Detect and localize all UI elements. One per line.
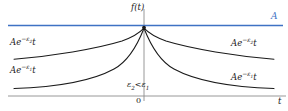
inequality-right-subscript: 1	[146, 85, 150, 91]
peak-junction-dot	[142, 26, 146, 30]
fast-decay-variable-right: t	[253, 72, 256, 82]
slow-decay-prefix-right: Ae	[231, 38, 242, 48]
epsilon-inequality-annotation: ε2<ε1	[127, 81, 149, 89]
origin-tick-label: 0	[136, 97, 141, 105]
fast-decay-variable-left: t	[32, 65, 35, 75]
fast-decay-label-left: Ae−ε1t	[10, 66, 36, 75]
slow-decay-variable-left: t	[32, 37, 35, 47]
slow-decay-label-right: Ae−ε2t	[231, 39, 257, 48]
x-axis-label: t	[278, 97, 281, 106]
amplitude-label: A	[271, 12, 278, 21]
slow-decay-label-left: Ae−ε2t	[10, 38, 36, 47]
plot-canvas	[0, 0, 288, 111]
fast-decay-prefix-right: Ae	[231, 72, 242, 82]
slow-decay-prefix-left: Ae	[10, 37, 21, 47]
slow-decay-variable-right: t	[253, 38, 256, 48]
inequality-operator: <	[135, 80, 142, 89]
y-axis-label: f(t)	[131, 3, 144, 12]
fast-decay-prefix-left: Ae	[10, 65, 21, 75]
exponential-decay-figure: f(t) A Ae−ε2t Ae−ε2t Ae−ε1t Ae−ε1t ε2<ε1…	[0, 0, 288, 111]
fast-decay-label-right: Ae−ε1t	[231, 73, 257, 82]
